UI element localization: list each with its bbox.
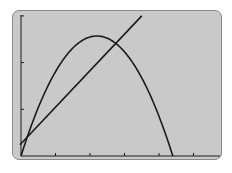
calculator-screen bbox=[12, 10, 222, 160]
linear-line bbox=[20, 16, 142, 145]
parabola-curve bbox=[21, 36, 173, 156]
graph-plot bbox=[13, 11, 222, 160]
